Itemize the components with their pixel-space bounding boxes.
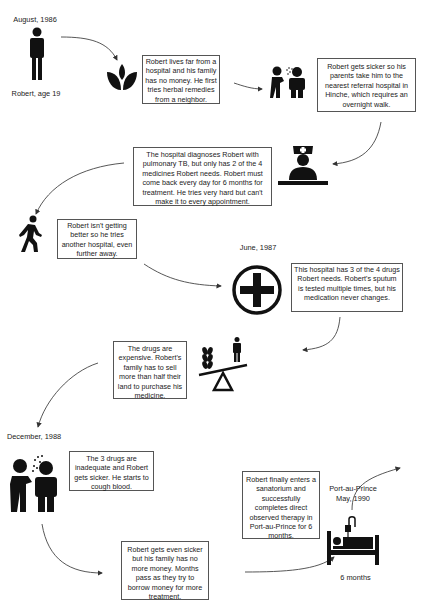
event-no-money-text: Robert gets even sicker but his family h…	[121, 541, 209, 600]
coughing-people-icon	[8, 454, 60, 514]
event-december-1988-date: December, 1988	[5, 432, 63, 442]
event-expensive-text: The drugs are expensive. Robert's family…	[113, 341, 187, 399]
walking-person-icon	[16, 215, 44, 253]
nurse-icon	[277, 144, 329, 186]
hospital-bed-icon	[327, 515, 379, 565]
event-another-hospital-text: Robert isn't getting better so he tries …	[57, 219, 137, 259]
person-icon	[27, 27, 47, 82]
medical-cross-icon	[231, 264, 283, 316]
start-date: August, 1986	[6, 15, 64, 25]
event-end-location-date: Port-au-Prince May, 1990	[323, 484, 383, 503]
event-sanatorium-text: Robert finally enters a sanatorium and s…	[242, 471, 320, 539]
event-diagnosis-text: The hospital diagnoses Robert with pulmo…	[133, 147, 272, 206]
event-june-1987-date: June, 1987	[238, 243, 278, 253]
event-sicker-text: Robert gets sicker so his parents take h…	[317, 58, 416, 112]
seesaw-land-person-icon	[197, 337, 249, 392]
event-end-duration: 6 months	[333, 573, 378, 583]
event-cough-blood-text: The 3 drugs are inadequate and Robert ge…	[69, 451, 154, 491]
herbal-leaf-icon	[107, 64, 137, 92]
event-three-drugs-text: This hospital has 3 of the 4 drugs Rober…	[291, 263, 403, 312]
event-herbal-text: Robert lives far from a hospital and his…	[142, 55, 220, 104]
coughing-people-icon	[270, 65, 310, 98]
person-label: Robert, age 19	[6, 89, 66, 99]
